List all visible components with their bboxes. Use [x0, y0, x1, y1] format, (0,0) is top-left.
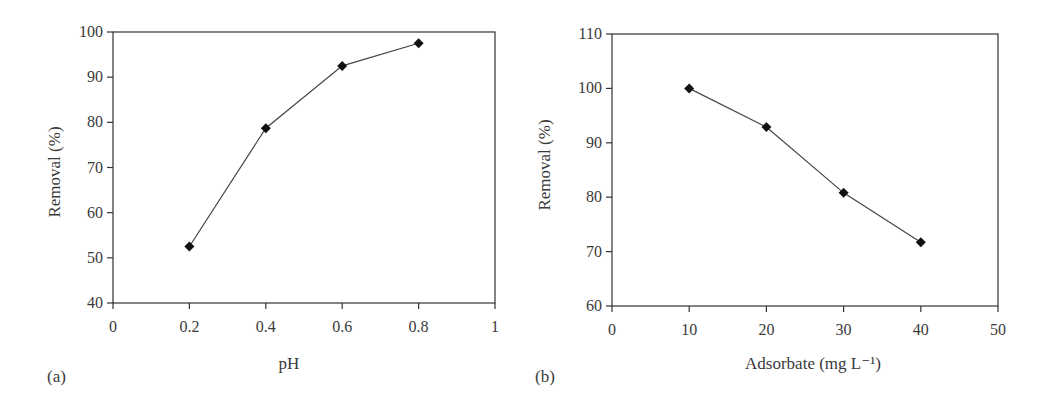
y-tick-label: 80 [586, 188, 602, 205]
x-tick-label: 10 [681, 321, 697, 338]
x-tick-label: 40 [913, 321, 929, 338]
chart-b-y-axis-label: Removal (%) [535, 119, 554, 210]
x-tick-label: 0.2 [179, 318, 199, 335]
diamond-marker-icon [916, 237, 926, 247]
chart-a-plot-frame [113, 32, 495, 303]
y-tick-label: 70 [87, 159, 103, 176]
y-tick-label: 50 [87, 249, 103, 266]
chart-a: 405060708090100 00.20.40.60.81 Removal (… [45, 23, 499, 373]
x-tick-label: 0.6 [332, 318, 352, 335]
y-tick-label: 80 [87, 113, 103, 130]
x-tick-label: 0 [608, 321, 616, 338]
chart-a-panel-label: (a) [47, 367, 66, 387]
x-tick-label: 30 [836, 321, 852, 338]
diamond-marker-icon [414, 38, 424, 48]
chart-a-x-axis-label: pH [279, 354, 300, 373]
chart-a-series-line [189, 43, 418, 246]
diamond-marker-icon [684, 83, 694, 93]
y-tick-label: 90 [87, 68, 103, 85]
chart-b-x-axis-label: Adsorbate (mg L⁻¹) [745, 354, 881, 373]
x-tick-label: 20 [758, 321, 774, 338]
x-tick-label: 1 [491, 318, 499, 335]
chart-b-y-ticks: 60708090100110 [578, 25, 612, 314]
chart-b-plot-frame [612, 34, 998, 306]
chart-b-panel-label: (b) [535, 367, 555, 387]
y-tick-label: 110 [579, 25, 602, 42]
x-tick-label: 0.4 [256, 318, 276, 335]
y-tick-label: 40 [87, 294, 103, 311]
x-tick-label: 0.8 [409, 318, 429, 335]
y-tick-label: 70 [586, 243, 602, 260]
y-tick-label: 60 [586, 297, 602, 314]
chart-a-y-axis-label: Removal (%) [45, 126, 64, 217]
y-tick-label: 100 [578, 79, 602, 96]
chart-b-series-line [689, 88, 921, 242]
diamond-marker-icon [184, 242, 194, 252]
x-tick-label: 50 [990, 321, 1006, 338]
figure-canvas: 405060708090100 00.20.40.60.81 Removal (… [0, 0, 1048, 409]
chart-a-markers [184, 38, 423, 251]
chart-b: 60708090100110 01020304050 Removal (%) A… [535, 25, 1006, 373]
chart-a-y-ticks: 405060708090100 [79, 23, 113, 311]
x-tick-label: 0 [109, 318, 117, 335]
chart-a-x-ticks: 00.20.40.60.81 [109, 303, 499, 335]
y-tick-label: 90 [586, 134, 602, 151]
chart-b-x-ticks: 01020304050 [608, 306, 1006, 338]
y-tick-label: 100 [79, 23, 103, 40]
y-tick-label: 60 [87, 204, 103, 221]
